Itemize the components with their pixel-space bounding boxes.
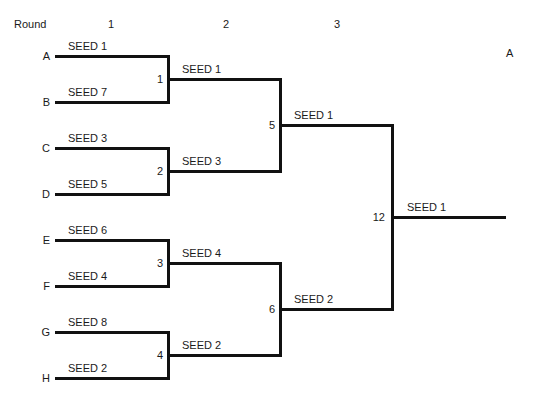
- match-number-2: 2: [143, 165, 163, 177]
- bracket-line-h: [55, 377, 170, 380]
- round-3-header: 3: [334, 18, 340, 30]
- round1-team-c: SEED 3: [68, 132, 107, 144]
- champion-label: A: [506, 47, 513, 59]
- round2-winner-4: SEED 2: [182, 339, 221, 351]
- bracket-line-r2-2: [167, 170, 282, 173]
- slot-label-h: H: [36, 372, 50, 384]
- round3-winner-6: SEED 2: [294, 293, 333, 305]
- round-header-label: Round: [14, 18, 46, 30]
- bracket-line-d: [55, 193, 170, 196]
- slot-label-b: B: [36, 96, 50, 108]
- bracket-line-e: [55, 239, 170, 242]
- round1-team-f: SEED 4: [68, 270, 107, 282]
- match-number-3: 3: [143, 257, 163, 269]
- match-number-6: 6: [255, 303, 275, 315]
- round1-team-d: SEED 5: [68, 178, 107, 190]
- match-number-12: 12: [365, 211, 385, 223]
- final-winner: SEED 1: [407, 201, 446, 213]
- bracket-line-r3-6: [279, 308, 394, 311]
- match-number-5: 5: [255, 119, 275, 131]
- bracket-line-c: [55, 147, 170, 150]
- round1-team-e: SEED 6: [68, 224, 107, 236]
- round1-team-b: SEED 7: [68, 86, 107, 98]
- match-number-4: 4: [143, 349, 163, 361]
- bracket-line-f: [55, 285, 170, 288]
- round-2-header: 2: [223, 18, 229, 30]
- bracket-line-a: [55, 55, 170, 58]
- round2-winner-1: SEED 1: [182, 63, 221, 75]
- round3-winner-5: SEED 1: [294, 109, 333, 121]
- bracket-line-r2-4: [167, 354, 282, 357]
- slot-label-c: C: [36, 142, 50, 154]
- bracket-line-r3-5: [279, 124, 394, 127]
- slot-label-a: A: [36, 50, 50, 62]
- bracket-line-g: [55, 331, 170, 334]
- slot-label-f: F: [36, 280, 50, 292]
- round2-winner-2: SEED 3: [182, 155, 221, 167]
- bracket-line-b: [55, 101, 170, 104]
- slot-label-e: E: [36, 234, 50, 246]
- round-1-header: 1: [108, 18, 114, 30]
- slot-label-d: D: [36, 188, 50, 200]
- round1-team-h: SEED 2: [68, 362, 107, 374]
- round1-team-g: SEED 8: [68, 316, 107, 328]
- slot-label-g: G: [36, 326, 50, 338]
- bracket-line-r2-1: [167, 78, 282, 81]
- round1-team-a: SEED 1: [68, 40, 107, 52]
- bracket-line-final: [391, 216, 506, 219]
- match-number-1: 1: [143, 73, 163, 85]
- bracket-line-r2-3: [167, 262, 282, 265]
- round2-winner-3: SEED 4: [182, 247, 221, 259]
